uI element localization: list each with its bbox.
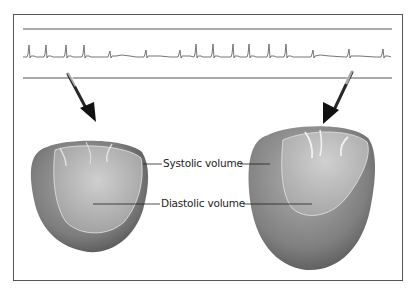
systolic-volume-label: Systolic volume: [163, 157, 243, 169]
diastolic-volume-label: Diastolic volume: [161, 197, 245, 209]
heart-normal-ventricle: [31, 141, 148, 252]
arrow-left: [68, 72, 96, 122]
heart-dilated-ventricle: [249, 126, 376, 270]
ecg-trace: [23, 44, 391, 58]
diagram-canvas: [0, 0, 419, 294]
